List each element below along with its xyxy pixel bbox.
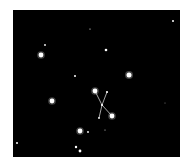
star <box>50 99 55 104</box>
star <box>87 131 89 133</box>
constellation-star <box>93 89 98 94</box>
constellation-star <box>106 91 108 93</box>
constellation-line <box>99 105 102 118</box>
star <box>127 73 132 78</box>
star <box>165 103 166 104</box>
star <box>44 44 46 46</box>
star <box>78 129 83 134</box>
night-sky-panel <box>13 10 180 157</box>
star <box>105 49 108 52</box>
constellation-line <box>102 92 107 105</box>
star <box>74 75 76 77</box>
field-stars <box>16 20 174 152</box>
star <box>105 130 106 131</box>
star <box>89 28 90 29</box>
star <box>39 53 44 58</box>
star-field <box>13 10 180 157</box>
star <box>79 150 82 153</box>
star <box>172 20 174 22</box>
constellation-stars <box>91 87 116 120</box>
constellation-star <box>101 104 103 106</box>
constellation-star <box>110 114 115 119</box>
constellation-star <box>98 117 100 119</box>
star <box>16 142 18 144</box>
star <box>75 146 77 148</box>
